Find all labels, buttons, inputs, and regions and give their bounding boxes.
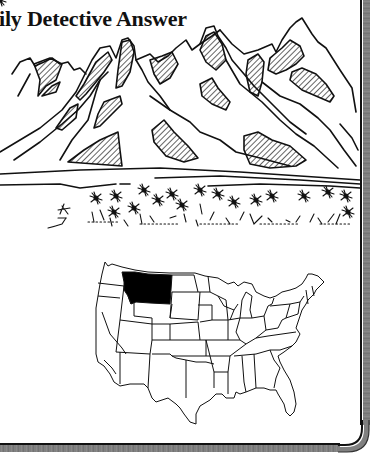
frame-corner	[338, 420, 370, 458]
mountain-range	[0, 18, 360, 188]
us-map	[96, 262, 324, 424]
illustration-canvas	[0, 0, 370, 458]
